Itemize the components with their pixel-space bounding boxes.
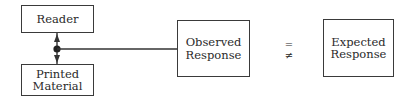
not-equal-symbol: ≠ bbox=[283, 51, 295, 61]
equal-symbol: = bbox=[283, 40, 295, 50]
expected-response-box: Expected Response bbox=[323, 19, 394, 77]
observed-response-label: Observed Response bbox=[186, 36, 242, 61]
reader-label: Reader bbox=[37, 13, 79, 26]
arrow-up-icon bbox=[54, 34, 60, 42]
printed-material-box: Printed Material bbox=[21, 64, 94, 96]
expected-response-label: Expected Response bbox=[331, 36, 387, 61]
observed-response-box: Observed Response bbox=[177, 20, 250, 77]
arrow-down-icon bbox=[54, 55, 60, 63]
reader-box: Reader bbox=[21, 5, 94, 33]
printed-material-label: Printed Material bbox=[33, 68, 83, 93]
